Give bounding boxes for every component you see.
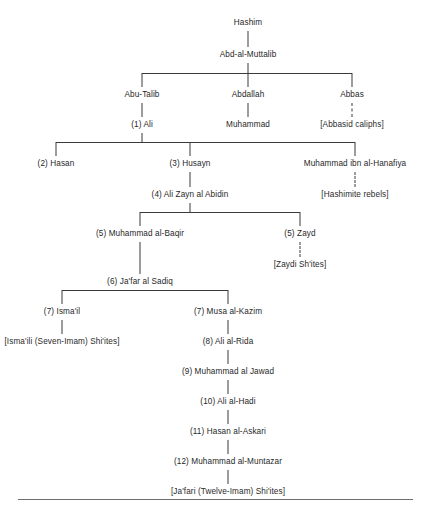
edge-askari_11-to-muntazar_12 — [228, 440, 229, 454]
edge-zayd_5-to-zaydi — [300, 242, 301, 257]
tree-node-abu_talib: Abu-Talib — [124, 90, 159, 100]
edge-abdallah-to-muhammad — [248, 103, 249, 117]
tree-node-hashimite: [Hashimite rebels] — [321, 190, 388, 200]
tree-node-hashim: Hashim — [234, 18, 262, 28]
edge-jawad_9-to-hadi_10 — [228, 380, 229, 394]
tree-node-baqir_5: (5) Muhammad al-Baqir — [96, 229, 184, 239]
edge-ali_1-stem — [142, 133, 143, 142]
tree-node-muhammad: Muhammad — [226, 120, 270, 130]
tree-node-abbasid: [Abbasid caliphs] — [320, 120, 384, 130]
family-tree-diagram: HashimAbd-al-MuttalibAbu-TalibAbdallahAb… — [0, 0, 427, 508]
tree-node-askari_11: (11) Hasan al-Askari — [190, 427, 266, 437]
tree-node-sadiq_6: (6) Ja'far al Sadiq — [107, 277, 173, 287]
edge-hashim-to-abd_muttalib — [248, 31, 249, 47]
edge-ismail_7-to-ismaili — [62, 320, 63, 334]
tree-node-muntazar_12: (12) Muhammad al-Muntazar — [174, 457, 282, 467]
footer-divider — [18, 499, 413, 500]
tree-node-hasan_2: (2) Hasan — [38, 159, 75, 169]
edge-abidin_4-to-baqir_5 — [140, 212, 141, 226]
edge-husayn_3-to-abidin_4 — [190, 172, 191, 187]
edge-sadiq_6-to-musa_7 — [228, 290, 229, 304]
tree-node-abidin_4: (4) Ali Zayn al Abidin — [152, 190, 229, 200]
edge-abbas-to-abbasid — [352, 103, 353, 117]
edge-hadi_10-to-askari_11 — [228, 410, 229, 424]
tree-node-zaydi: [Zaydi Sh'ites] — [274, 260, 327, 270]
edge-hanafiya-to-hashimite — [355, 172, 356, 187]
tree-node-musa_7: (7) Musa al-Kazim — [194, 307, 262, 317]
edge-abd_muttalib-stem — [248, 63, 249, 73]
tree-node-jafari: [Ja'fari (Twelve-Imam) Shi'ites] — [171, 487, 285, 497]
edge-abidin_4-bus — [140, 212, 300, 213]
edge-abd_muttalib-to-abbas — [352, 73, 353, 87]
edge-baqir_5-to-sadiq_6 — [140, 242, 141, 274]
tree-node-rida_8: (8) Ali al-Rida — [203, 337, 254, 347]
tree-node-husayn_3: (3) Husayn — [169, 159, 210, 169]
tree-node-ismail_7: (7) Isma'il — [44, 307, 80, 317]
tree-node-jawad_9: (9) Muhammad al Jawad — [182, 367, 274, 377]
tree-node-hanafiya: Muhammad ibn al-Hanafiya — [304, 159, 407, 169]
edge-sadiq_6-bus — [62, 290, 228, 291]
edge-abu_talib-to-ali_1 — [142, 103, 143, 117]
edge-abidin_4-to-zayd_5 — [300, 212, 301, 226]
edge-musa_7-to-rida_8 — [228, 320, 229, 334]
edge-rida_8-to-jawad_9 — [228, 350, 229, 364]
edge-abidin_4-stem — [190, 203, 191, 212]
edge-ali_1-to-husayn_3 — [190, 142, 191, 156]
edge-ali_1-to-hanafiya — [355, 142, 356, 156]
tree-node-abbas: Abbas — [340, 90, 364, 100]
edge-muntazar_12-to-jafari — [228, 470, 229, 484]
edge-ali_1-to-hasan_2 — [56, 142, 57, 156]
tree-node-hadi_10: (10) Ali al-Hadi — [200, 397, 255, 407]
tree-node-ismaili: [Isma'ili (Seven-Imam) Shi'ites] — [4, 337, 119, 347]
tree-node-abd_muttalib: Abd-al-Muttalib — [220, 50, 277, 60]
edge-abd_muttalib-to-abu_talib — [142, 73, 143, 87]
edge-abd_muttalib-to-abdallah — [248, 73, 249, 87]
tree-node-abdallah: Abdallah — [232, 90, 265, 100]
edge-ali_1-bus — [56, 142, 355, 143]
edge-sadiq_6-to-ismail_7 — [62, 290, 63, 304]
tree-node-ali_1: (1) Ali — [131, 120, 153, 130]
tree-node-zayd_5: (5) Zayd — [284, 229, 315, 239]
